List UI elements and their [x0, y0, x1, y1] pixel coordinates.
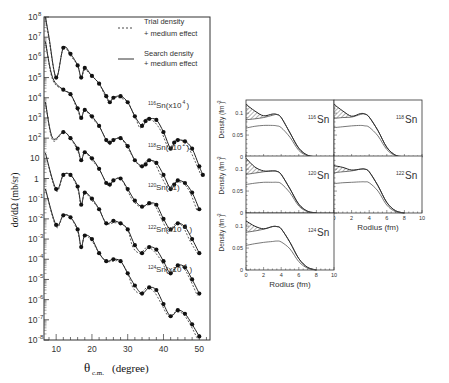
svg-text:10: 10	[28, 274, 38, 284]
density-y-tick: 0.1	[235, 166, 243, 172]
density-x-tick: 2	[350, 215, 353, 221]
panel-mass-number: 120	[308, 170, 317, 176]
data-point	[76, 184, 80, 188]
svg-text:Sn(x10: Sn(x10	[156, 265, 182, 274]
data-point	[97, 82, 101, 86]
data-point	[144, 162, 148, 166]
density-x-tick: 6	[297, 272, 300, 278]
data-point	[154, 161, 158, 165]
data-point	[126, 187, 130, 191]
data-point	[111, 138, 115, 142]
data-point	[76, 147, 80, 151]
svg-text:10: 10	[28, 194, 38, 204]
data-point	[97, 251, 101, 255]
density-x-label: Rodius (fm)	[269, 280, 311, 289]
data-point	[133, 243, 137, 247]
svg-text:10: 10	[28, 335, 38, 345]
data-point	[190, 237, 194, 241]
data-point	[154, 118, 158, 122]
data-point	[79, 116, 83, 120]
x-axis-label: θ c.m. (degree)	[84, 360, 149, 377]
svg-text:10: 10	[28, 315, 38, 325]
trial-density-curve	[45, 189, 197, 338]
density-x-tick: 8	[403, 215, 406, 221]
data-point	[154, 248, 158, 252]
svg-text:10: 10	[28, 254, 38, 264]
data-point	[111, 96, 115, 100]
svg-text:Sn(x10: Sn(x10	[156, 143, 182, 152]
isotope-label: 124Sn(x10-4)	[148, 263, 192, 274]
data-point	[68, 173, 72, 177]
svg-text:-3: -3	[217, 213, 222, 217]
density-panel-122sn: 122Sn0246810Rodius (fm)	[332, 156, 425, 232]
x-axis-subscript: c.m.	[92, 369, 104, 377]
legend: Trial density + medium effect Search den…	[118, 17, 198, 68]
data-point	[133, 114, 137, 118]
y-tick-label: 10-6	[28, 294, 44, 305]
data-point	[118, 94, 122, 98]
density-x-tick: 0	[244, 272, 247, 278]
density-y-tick: 0.05	[232, 132, 243, 138]
svg-text:10: 10	[28, 214, 38, 224]
data-point	[90, 197, 94, 201]
data-point	[133, 283, 137, 287]
legend-trial-label: Trial density	[144, 17, 184, 26]
data-point	[147, 117, 151, 121]
data-point	[108, 182, 112, 186]
density-x-tick: 8	[315, 272, 318, 278]
density-y-tick: 0.1	[235, 223, 243, 229]
y-tick-marks	[44, 17, 49, 340]
density-y-tick: 0.05	[232, 245, 243, 251]
data-point	[197, 334, 201, 338]
data-point	[197, 251, 201, 255]
data-point	[147, 285, 151, 289]
density-y-tick: 0.05	[232, 188, 243, 194]
svg-text:6: 6	[38, 51, 42, 57]
data-point	[161, 173, 165, 177]
x-tick-label: 50	[195, 344, 205, 354]
isotope-label: 120Sn(x1)	[148, 182, 180, 192]
data-point	[104, 221, 108, 225]
data-point	[133, 158, 137, 162]
data-point	[133, 199, 137, 203]
density-panel-120sn: 120Sn00.050.1Density (fm )-3	[217, 156, 334, 216]
data-point	[197, 164, 201, 168]
data-point	[79, 203, 83, 207]
data-point	[90, 74, 94, 78]
data-point	[147, 201, 151, 205]
data-point	[154, 203, 158, 207]
svg-text:-7: -7	[38, 314, 44, 320]
data-point	[183, 181, 187, 185]
data-point	[126, 144, 130, 148]
svg-text:116: 116	[148, 100, 156, 106]
svg-text:): )	[186, 101, 189, 110]
data-point	[140, 124, 144, 128]
svg-text:3: 3	[38, 112, 42, 118]
data-point	[90, 237, 94, 241]
density-x-tick: 6	[385, 215, 388, 221]
data-point	[83, 233, 87, 237]
y-tick-label: 10	[30, 153, 40, 163]
x-axis-theta: θ	[84, 360, 90, 375]
data-point	[108, 141, 112, 145]
figure: 10810710610510410310210110-110-210-310-4…	[0, 0, 449, 383]
legend-search-label: Search density	[144, 49, 194, 58]
panel-mass-number: 122	[396, 170, 405, 176]
data-point	[54, 187, 58, 191]
data-point	[169, 314, 173, 318]
svg-text:4: 4	[38, 92, 42, 98]
x-tick-label: 20	[87, 344, 97, 354]
y-tick-label: 106	[28, 51, 42, 62]
svg-text:-4: -4	[182, 263, 187, 269]
density-y-label: Density (fm )	[218, 215, 226, 252]
density-panels: 116Sn00.050.1Density (fm )-3118Sn120Sn00…	[217, 100, 425, 289]
legend-trial-sub: + medium effect	[144, 29, 198, 38]
data-point	[104, 181, 108, 185]
svg-text:Sn(x10: Sn(x10	[156, 225, 182, 234]
data-point	[83, 191, 87, 195]
y-axis-label: dσ/dΩ (mb/sr)	[10, 173, 21, 228]
svg-text:): )	[189, 265, 192, 274]
data-point	[79, 75, 83, 79]
svg-text:-3: -3	[217, 156, 222, 160]
isotope-label: 122Sn(x10-2)	[148, 223, 192, 234]
